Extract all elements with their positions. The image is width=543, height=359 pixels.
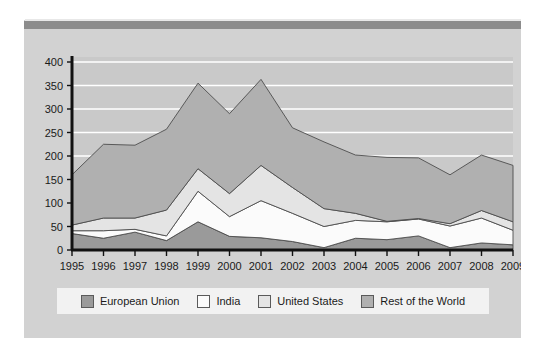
chart-svg: 050100150200250300350400 199519961997199… — [24, 29, 521, 294]
y-tick-label: 300 — [45, 103, 63, 115]
y-tick-label: 50 — [51, 221, 63, 233]
legend-swatch-icon — [81, 295, 94, 308]
y-tick-label: 200 — [45, 150, 63, 162]
chart-legend: European UnionIndiaUnited StatesRest of … — [57, 288, 489, 314]
x-tick-label: 1997 — [123, 260, 147, 272]
chart-page: 050100150200250300350400 199519961997199… — [0, 0, 543, 359]
legend-label: United States — [277, 295, 343, 307]
y-tick-label: 100 — [45, 197, 63, 209]
x-tick-label: 1999 — [186, 260, 210, 272]
y-tick-label: 0 — [57, 244, 63, 256]
x-tick-label: 2000 — [217, 260, 241, 272]
x-tick-label: 1995 — [60, 260, 84, 272]
legend-item-india[interactable]: India — [197, 295, 240, 308]
x-tick-label: 2003 — [312, 260, 336, 272]
y-tick-label: 350 — [45, 80, 63, 92]
x-tick-label: 1998 — [154, 260, 178, 272]
y-tick-label: 400 — [45, 56, 63, 68]
legend-label: India — [216, 295, 240, 307]
legend-item-united-states[interactable]: United States — [258, 295, 343, 308]
legend-item-rest-of-the-world[interactable]: Rest of the World — [361, 295, 465, 308]
x-tick-label: 2006 — [406, 260, 430, 272]
x-tick-label: 2002 — [280, 260, 304, 272]
y-tick-label: 150 — [45, 174, 63, 186]
legend-item-european-union[interactable]: European Union — [81, 295, 180, 308]
x-tick-label: 2001 — [249, 260, 273, 272]
x-tick-label: 2008 — [469, 260, 493, 272]
x-tick-label: 2005 — [375, 260, 399, 272]
y-axis-tick-labels: 050100150200250300350400 — [45, 56, 72, 256]
y-tick-label: 250 — [45, 127, 63, 139]
legend-swatch-icon — [258, 295, 271, 308]
x-tick-label: 1996 — [91, 260, 115, 272]
x-tick-label: 2009 — [501, 260, 521, 272]
header-bar — [24, 21, 521, 29]
x-tick-label: 2007 — [438, 260, 462, 272]
legend-swatch-icon — [361, 295, 374, 308]
x-axis-tick-labels: 1995199619971998199920002001200220032004… — [60, 260, 521, 272]
legend-label: Rest of the World — [380, 295, 465, 307]
legend-label: European Union — [100, 295, 180, 307]
x-tick-label: 2004 — [343, 260, 367, 272]
legend-swatch-icon — [197, 295, 210, 308]
